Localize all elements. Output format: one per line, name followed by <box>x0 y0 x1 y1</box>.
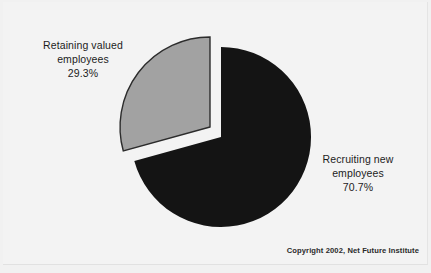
slice-label-recruiting-new-employees: Recruiting new employees 70.7% <box>296 152 420 194</box>
slice-label-line2: employees <box>332 167 384 179</box>
slice-label-retaining-valued-employees: Retaining valued employees 29.3% <box>18 38 148 80</box>
slice-label-line2: employees <box>57 53 109 65</box>
pie-chart-figure: Retaining valued employees 29.3% Recruit… <box>0 0 431 273</box>
slice-label-percent: 29.3% <box>18 66 148 80</box>
slice-label-percent: 70.7% <box>296 180 420 194</box>
copyright-notice: Copyright 2002, Net Future Institute <box>287 246 419 255</box>
slice-label-line1: Recruiting new <box>323 153 394 165</box>
slice-label-line1: Retaining valued <box>43 39 123 51</box>
